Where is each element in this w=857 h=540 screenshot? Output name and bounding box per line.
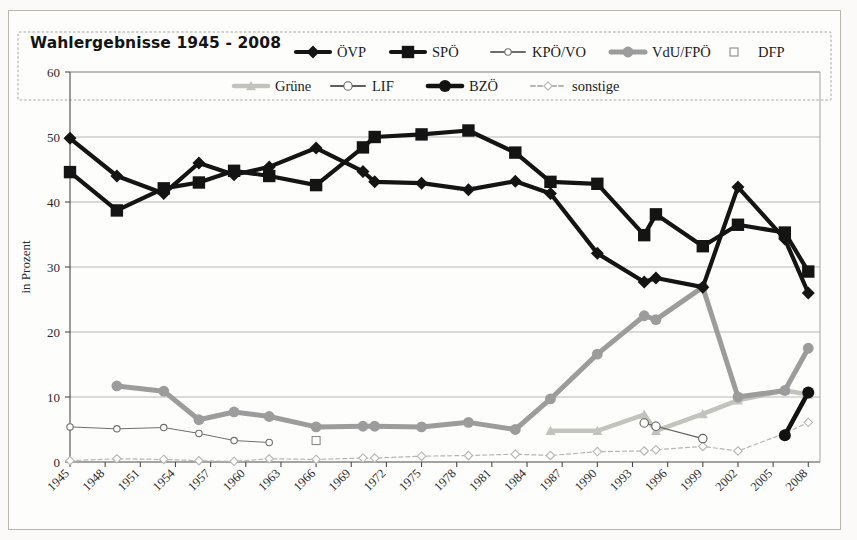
legend-entry-bz[interactable]: BZÖ (428, 78, 498, 94)
legend-sample-Grüne (234, 81, 268, 90)
data-point-lif-1999 (699, 434, 707, 442)
data-point-sp-1956 (193, 176, 205, 188)
y-tick-label-0: 0 (54, 455, 61, 470)
data-point-sonstige-1959 (230, 457, 238, 465)
data-point-sp-1970 (357, 141, 369, 153)
data-point-sonstige-1975 (417, 452, 425, 460)
series-dfp (312, 437, 320, 445)
series-kp-vo (67, 424, 273, 446)
x-tick-label-1945: 1945 (45, 466, 73, 494)
data-point-lif-1995 (652, 422, 660, 430)
data-point-vdu-fp-1990 (592, 349, 603, 360)
y-tick-label-20: 20 (47, 325, 60, 340)
data-point-sonstige-1990 (593, 447, 601, 455)
data-point-lif-1994 (640, 419, 648, 427)
data-point-bz-2006 (779, 429, 791, 441)
legend-entry-lif[interactable]: LIF (331, 78, 394, 94)
legend-entry-gr-ne[interactable]: Grüne (234, 78, 311, 94)
data-point-vp-1979 (462, 183, 475, 196)
series-line-gr-ne (550, 391, 808, 431)
data-point-sonstige-1971 (370, 454, 378, 462)
y-axis-tick-labels: 6050403020100 (47, 65, 60, 470)
legend-sample-VdU/FPÖ (611, 47, 645, 58)
legend-label-dfp: DFP (758, 44, 785, 60)
data-point-vdu-fp-1986 (545, 394, 556, 405)
x-tick-label-1957: 1957 (185, 466, 213, 494)
data-point-bz-2008 (802, 386, 814, 398)
data-point-vdu-fp-1983 (510, 424, 521, 435)
data-point-sp-1994 (638, 229, 650, 241)
data-point-vdu-fp-1971 (369, 421, 380, 432)
legend-sample-BZÖ (428, 80, 462, 92)
data-point-kp-vo-1956 (196, 430, 202, 436)
data-point-sp-1986 (544, 176, 556, 188)
x-tick-label-1981: 1981 (466, 466, 494, 494)
data-point-vdu-fp-1979 (463, 417, 474, 428)
y-tick-label-10: 10 (47, 390, 60, 405)
data-point-sonstige-1999 (699, 442, 707, 450)
data-point-sonstige-1956 (195, 457, 203, 465)
x-tick-label-1960: 1960 (220, 466, 248, 494)
data-point-sonstige-2008 (804, 418, 812, 426)
legend-entry-sonstige[interactable]: sonstige (531, 78, 620, 94)
data-point-sp-1979 (462, 124, 474, 136)
legend-sample-sonstige (531, 82, 565, 90)
y-tick-label-50: 50 (47, 130, 60, 145)
data-point-sonstige-1945 (66, 457, 74, 465)
x-tick-label-1975: 1975 (396, 466, 424, 494)
x-tick-label-2008: 2008 (783, 466, 811, 494)
x-tick-label-1999: 1999 (677, 466, 705, 494)
data-point-vdu-fp-1994 (639, 310, 650, 321)
legend-label-sonstige: sonstige (572, 78, 620, 94)
data-point-vp-1983 (509, 175, 522, 188)
data-point-sp-1983 (509, 146, 521, 158)
data-point-sonstige-1970 (359, 454, 367, 462)
y-tick-label-60: 60 (47, 65, 60, 80)
series-line-bz (785, 392, 808, 435)
series-vp (64, 132, 815, 300)
data-point-sonstige-1986 (546, 451, 554, 459)
y-tick-label-40: 40 (47, 195, 60, 210)
x-tick-label-1972: 1972 (361, 466, 389, 494)
series-line-kp-vo (70, 427, 269, 443)
x-tick-label-1996: 1996 (642, 466, 670, 494)
data-point-sp-2008 (802, 265, 814, 277)
x-tick-label-1978: 1978 (431, 466, 459, 494)
data-point-sp-1990 (591, 178, 603, 190)
legend-entry-sp[interactable]: SPÖ (391, 44, 459, 60)
x-tick-label-1954: 1954 (150, 466, 178, 494)
data-point-kp-vo-1945 (67, 424, 73, 430)
data-point-vdu-fp-1975 (416, 422, 427, 433)
data-point-kp-vo-1953 (161, 424, 167, 430)
legend-entry-vdu-fp[interactable]: VdU/FPÖ (611, 44, 711, 60)
chart-title: Wahlergebnisse 1945 - 2008 (30, 34, 281, 52)
legend-entry-dfp[interactable]: DFP (730, 44, 785, 60)
legend-sample-KPÖ/VO (491, 49, 525, 55)
chart-container: Wahlergebnisse 1945 - 2008 ÖVPSPÖKPÖ/VOV… (8, 10, 841, 530)
data-point-sonstige-1995 (652, 445, 660, 453)
legend-entry-vp[interactable]: ÖVP (296, 44, 366, 60)
data-point-dfp-1966 (312, 437, 320, 445)
legend-entry-kp-vo[interactable]: KPÖ/VO (491, 44, 586, 60)
legend-sample-ÖVP (296, 46, 330, 59)
data-point-sp-1945 (64, 166, 76, 178)
y-axis-title-text: in Prozent (18, 240, 33, 293)
data-point-kp-vo-1959 (231, 437, 237, 443)
data-point-vp-2008 (802, 287, 815, 300)
data-point-sp-1971 (368, 131, 380, 143)
legend-label-lif: LIF (372, 78, 394, 94)
data-point-sonstige-2002 (734, 447, 742, 455)
x-tick-label-1963: 1963 (255, 466, 283, 494)
x-axis-tick-labels: 1945194819511954195719601963196619691972… (45, 466, 811, 494)
x-tick-label-2002: 2002 (713, 466, 741, 494)
legend-label-vdu-fp: VdU/FPÖ (652, 44, 711, 60)
election-results-line-chart: Wahlergebnisse 1945 - 2008 ÖVPSPÖKPÖ/VOV… (8, 10, 841, 530)
data-point-vdu-fp-1956 (194, 414, 205, 425)
x-tick-label-1951: 1951 (115, 466, 143, 494)
data-point-vdu-fp-1966 (311, 422, 322, 433)
y-tick-label-30: 30 (47, 260, 60, 275)
y-axis-title: in Prozent (18, 240, 33, 293)
x-tick-label-1969: 1969 (326, 466, 354, 494)
data-point-vdu-fp-2008 (803, 343, 814, 354)
legend-label-kp-vo: KPÖ/VO (532, 44, 586, 60)
